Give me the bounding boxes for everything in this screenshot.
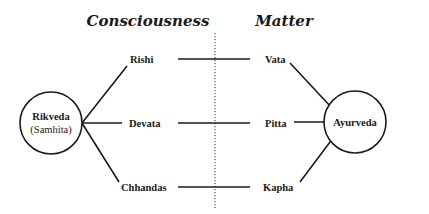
item-pitta: Pitta (265, 118, 287, 129)
node-rikveda-sublabel: (Samhita) (30, 124, 72, 136)
connector-rikveda-rishi (82, 66, 127, 123)
heading-consciousness: Consciousness (87, 12, 210, 30)
connector-rikveda-chhandas (82, 123, 119, 182)
item-kapha: Kapha (263, 182, 294, 193)
item-vata: Vata (265, 54, 286, 65)
node-rikveda-label: Rikveda (32, 111, 70, 122)
heading-matter: Matter (254, 12, 314, 30)
item-rishi: Rishi (130, 54, 153, 65)
item-chhandas: Chhandas (121, 182, 167, 193)
diagram-canvas: Consciousness Matter Rikveda (Samhita) A… (0, 0, 429, 214)
node-rikveda-circle (20, 92, 82, 154)
item-devata: Devata (129, 118, 161, 129)
node-ayurveda-label: Ayurveda (333, 117, 377, 128)
